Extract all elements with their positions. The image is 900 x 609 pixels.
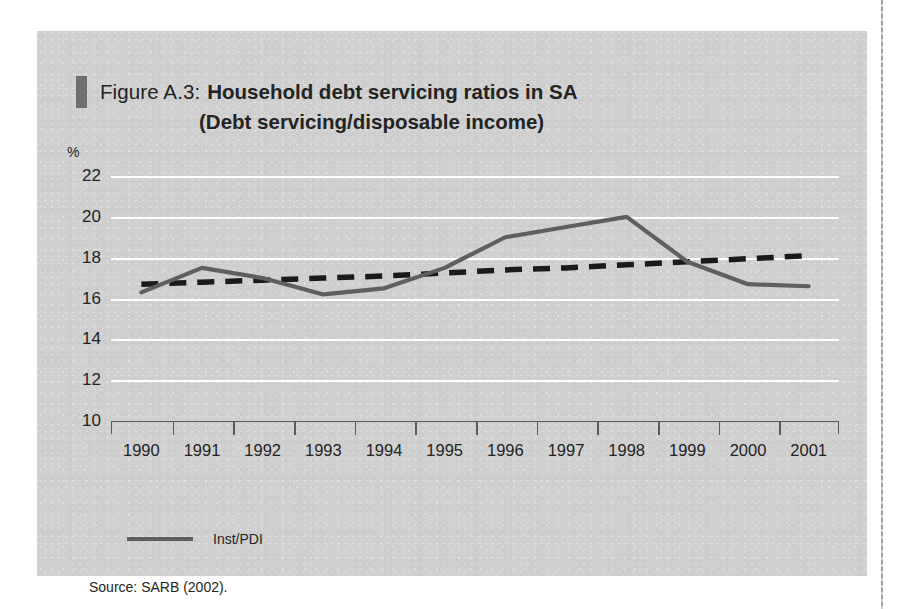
page-edge-rule xyxy=(881,0,883,609)
x-tick-label-1992: 1992 xyxy=(244,441,281,460)
legend-label-inst-pdi: Inst/PDI xyxy=(213,531,263,547)
x-tick-label-1991: 1991 xyxy=(184,441,221,460)
figure-panel: % 10121416182022 19901991199219931994199… xyxy=(37,31,867,576)
x-tick-1 xyxy=(173,422,175,435)
x-tick-3 xyxy=(294,422,296,435)
y-axis-tick-labels: 10121416182022 xyxy=(61,31,101,576)
x-tick-10 xyxy=(719,422,721,435)
x-tick-label-1990: 1990 xyxy=(123,441,160,460)
x-tick-2 xyxy=(233,422,235,435)
chart-legend: Inst/PDI xyxy=(127,531,263,547)
x-tick-9 xyxy=(658,422,660,435)
x-tick-label-1993: 1993 xyxy=(305,441,342,460)
x-tick-7 xyxy=(537,422,539,435)
x-tick-label-2001: 2001 xyxy=(790,441,827,460)
x-tick-label-1996: 1996 xyxy=(487,441,524,460)
x-tick-label-1999: 1999 xyxy=(669,441,706,460)
figure-number-label: Figure A.3: xyxy=(100,80,200,103)
x-tick-4 xyxy=(355,422,357,435)
source-note: Source: SARB (2002). xyxy=(89,579,228,595)
x-axis-tick-labels: 1990199119921993199419951996199719981999… xyxy=(111,441,839,465)
x-tick-11 xyxy=(779,422,781,435)
legend-swatch-inst-pdi xyxy=(127,537,193,541)
y-tick-label-14: 14 xyxy=(67,329,101,349)
series-plot xyxy=(111,176,839,421)
x-tick-label-1997: 1997 xyxy=(548,441,585,460)
y-tick-label-18: 18 xyxy=(67,248,101,268)
x-tick-label-2000: 2000 xyxy=(730,441,767,460)
y-tick-label-20: 20 xyxy=(67,207,101,227)
figure-title-line1: Household debt servicing ratios in SA xyxy=(207,80,577,103)
x-tick-label-1994: 1994 xyxy=(366,441,403,460)
x-tick-8 xyxy=(597,422,599,435)
x-tick-6 xyxy=(476,422,478,435)
y-tick-label-22: 22 xyxy=(67,166,101,186)
x-tick-label-1995: 1995 xyxy=(426,441,463,460)
y-tick-label-10: 10 xyxy=(67,411,101,431)
x-axis-frame xyxy=(111,421,839,434)
x-tick-5 xyxy=(415,422,417,435)
y-tick-label-12: 12 xyxy=(67,370,101,390)
title-accent-bar xyxy=(76,76,87,108)
y-tick-label-16: 16 xyxy=(67,289,101,309)
figure-title-line2: (Debt servicing/disposable income) xyxy=(199,107,860,137)
figure-title: Figure A.3:Household debt servicing rati… xyxy=(100,77,860,137)
x-tick-label-1998: 1998 xyxy=(608,441,645,460)
